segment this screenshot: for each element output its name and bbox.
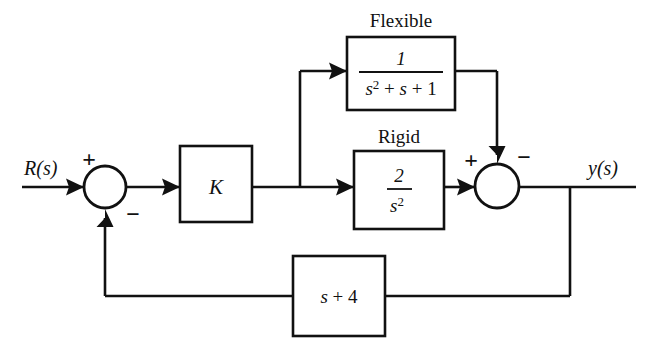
feedback-s: s — [320, 286, 327, 307]
summing-junction-left-minus: − — [126, 201, 140, 227]
summing-junction-left-plus: + — [82, 146, 96, 172]
rigid-block[interactable] — [354, 151, 444, 229]
block-diagram-svg: K Flexible 1 s2 + s + 1 Rigid 2 s2 s + 4… — [0, 0, 649, 355]
block-diagram-canvas: K Flexible 1 s2 + s + 1 Rigid 2 s2 s + 4… — [0, 0, 649, 355]
gain-block-label: K — [208, 175, 224, 199]
summing-junction-right-minus: − — [517, 144, 531, 170]
rigid-numerator: 2 — [394, 165, 404, 186]
arrowhead-sum-left-bottom — [97, 209, 114, 227]
rigid-caption: Rigid — [378, 126, 421, 147]
output-label: y(s) — [586, 157, 618, 180]
flexible-den-one: 1 — [427, 78, 437, 99]
feedback-four: 4 — [348, 286, 358, 307]
summing-junction-left[interactable] — [84, 166, 126, 208]
flexible-den-plus-1: + — [384, 78, 395, 99]
rigid-den-exponent: 2 — [397, 194, 404, 209]
rigid-den-s: s — [390, 195, 397, 216]
input-label: R(s) — [23, 157, 58, 180]
flexible-den-s1: s — [365, 78, 372, 99]
summing-junction-right[interactable] — [475, 164, 519, 208]
feedback-block-label: s + 4 — [320, 286, 358, 307]
summing-junction-right-plus: + — [464, 147, 478, 173]
flexible-den-s2: s — [400, 78, 407, 99]
feedback-plus: + — [333, 286, 344, 307]
flexible-den-plus-2: + — [412, 78, 423, 99]
arrowhead-sum-right-top — [489, 146, 506, 164]
flexible-numerator: 1 — [396, 48, 406, 69]
flexible-caption: Flexible — [370, 10, 432, 31]
